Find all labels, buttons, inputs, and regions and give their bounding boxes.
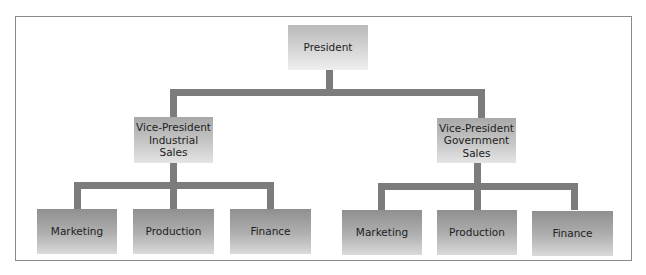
connector-industrial-horizontal (74, 182, 274, 189)
node-industrial-marketing: Marketing (37, 209, 117, 254)
node-vp-government-sales: Vice-President Government Sales (437, 118, 516, 163)
node-vp-industrial-sales: Vice-President Industrial Sales (134, 117, 213, 163)
node-label: Production (449, 226, 505, 239)
node-government-marketing: Marketing (342, 210, 422, 255)
node-label: Vice-President Industrial Sales (136, 121, 211, 159)
connector-vp-horizontal (170, 89, 485, 96)
node-label: Marketing (356, 226, 408, 239)
node-president: President (288, 25, 368, 70)
node-industrial-finance: Finance (230, 209, 311, 254)
connector-government-horizontal (378, 183, 578, 190)
node-label: Marketing (51, 225, 103, 238)
node-label: Production (146, 225, 202, 238)
node-government-finance: Finance (532, 211, 613, 256)
connector-industrial-marketing (74, 182, 81, 210)
node-government-production: Production (437, 210, 517, 255)
connector-vp-government-up (478, 89, 485, 119)
connector-government-finance (571, 183, 578, 210)
connector-government-marketing (378, 183, 385, 210)
connector-industrial-finance (267, 182, 274, 210)
node-label: Finance (250, 225, 290, 238)
node-industrial-production: Production (133, 209, 214, 254)
connector-vp-industrial-up (170, 89, 177, 118)
node-label: Finance (552, 227, 592, 240)
node-label: Vice-President Government Sales (439, 122, 514, 160)
node-label: President (304, 41, 353, 54)
